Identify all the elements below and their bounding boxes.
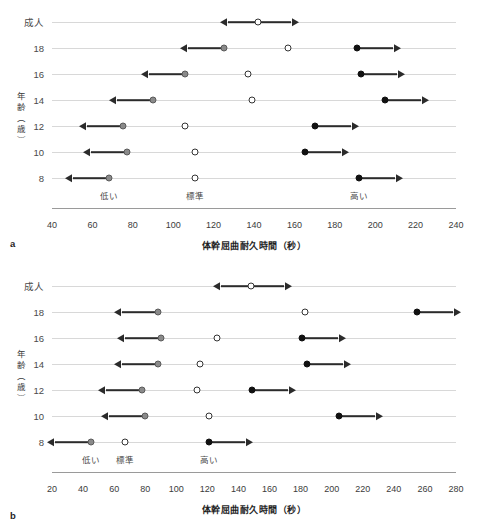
arrow-left-icon: [55, 441, 91, 443]
marker-standard: [205, 413, 212, 420]
marker-high: [301, 149, 308, 156]
row-gridline: [52, 312, 456, 313]
arrow-left-icon: [221, 285, 251, 287]
marker-low: [154, 309, 161, 316]
arrow-right-icon: [357, 47, 393, 49]
arrow-left-icon: [228, 21, 258, 23]
arrow-left-icon: [117, 99, 153, 101]
marker-high: [299, 335, 306, 342]
arrow-right-icon: [417, 311, 453, 313]
y-axis-tick-label: 10: [33, 411, 44, 422]
marker-low: [220, 45, 227, 52]
y-axis-tick-label: 14: [33, 95, 44, 106]
marker-high: [356, 175, 363, 182]
y-axis-tick-label: 成人: [24, 15, 44, 29]
x-axis-tick-label: 200: [368, 220, 383, 230]
marker-standard: [244, 71, 251, 78]
arrow-right-icon: [209, 441, 245, 443]
chart-panel-b: 年齢（歳） 成人18161412108低い標準高い204060801001201…: [0, 258, 480, 527]
marker-low: [123, 149, 130, 156]
marker-standard: [248, 97, 255, 104]
x-axis-title: 体幹屈曲耐久時間（秒）: [52, 503, 456, 516]
arrow-right-icon: [305, 151, 341, 153]
x-axis-tick-label: 120: [206, 220, 221, 230]
x-axis-line: [52, 208, 456, 209]
x-axis-tick-label: 80: [128, 220, 138, 230]
y-axis-tick-label: 10: [33, 147, 44, 158]
arrow-left-icon: [122, 363, 158, 365]
x-axis-tick-label: 140: [246, 220, 261, 230]
marker-standard: [302, 309, 309, 316]
y-axis-tick-label: 8: [39, 437, 44, 448]
arrow-left-icon: [122, 311, 158, 313]
marker-low: [139, 387, 146, 394]
marker-standard: [193, 387, 200, 394]
y-axis-tick-label: 12: [33, 121, 44, 132]
x-axis-tick-label: 180: [293, 484, 308, 494]
x-axis-tick-label: 100: [169, 484, 184, 494]
marker-standard: [213, 335, 220, 342]
arrow-right-icon: [359, 177, 395, 179]
x-axis-tick-label: 60: [109, 484, 119, 494]
x-axis-tick-label: 20: [47, 484, 57, 494]
arrow-right-icon: [258, 21, 291, 23]
marker-high: [249, 387, 256, 394]
y-axis-label-b: 年齢（歳）: [14, 350, 26, 405]
x-axis-tick-label: 40: [47, 220, 57, 230]
marker-high: [336, 413, 343, 420]
marker-standard: [122, 439, 129, 446]
y-axis-tick-label: 18: [33, 43, 44, 54]
marker-standard: [196, 361, 203, 368]
x-axis-tick-label: 160: [287, 220, 302, 230]
zone-caption: 高い: [200, 453, 218, 465]
marker-low: [87, 439, 94, 446]
x-axis-tick-label: 80: [140, 484, 150, 494]
arrow-right-icon: [302, 337, 338, 339]
arrow-left-icon: [87, 125, 123, 127]
arrow-right-icon: [251, 285, 284, 287]
marker-standard: [255, 19, 262, 26]
marker-high: [382, 97, 389, 104]
row-gridline: [52, 364, 456, 365]
x-axis-tick-label: 100: [166, 220, 181, 230]
x-axis-tick-label: 220: [355, 484, 370, 494]
marker-standard: [247, 283, 254, 290]
marker-low: [157, 335, 164, 342]
arrow-right-icon: [339, 415, 375, 417]
marker-low: [154, 361, 161, 368]
y-axis-tick-label: 12: [33, 385, 44, 396]
marker-high: [311, 123, 318, 130]
zone-caption: 高い: [350, 189, 368, 201]
arrow-right-icon: [385, 99, 421, 101]
y-axis-tick-label: 14: [33, 359, 44, 370]
x-axis-title: 体幹屈曲耐久時間（秒）: [52, 239, 456, 252]
x-axis-tick-label: 260: [417, 484, 432, 494]
zone-caption: 低い: [82, 453, 100, 465]
marker-low: [182, 71, 189, 78]
arrow-left-icon: [125, 337, 161, 339]
marker-low: [119, 123, 126, 130]
x-axis-tick-label: 240: [386, 484, 401, 494]
x-axis-line: [52, 472, 456, 473]
zone-caption: 標準: [116, 453, 134, 465]
marker-high: [358, 71, 365, 78]
x-axis-tick-label: 40: [78, 484, 88, 494]
arrow-left-icon: [188, 47, 224, 49]
marker-low: [105, 175, 112, 182]
y-axis-tick-label: 成人: [24, 279, 44, 293]
x-axis-tick-label: 60: [87, 220, 97, 230]
marker-high: [303, 361, 310, 368]
marker-standard: [182, 123, 189, 130]
marker-low: [142, 413, 149, 420]
arrow-right-icon: [361, 73, 397, 75]
arrow-left-icon: [73, 177, 109, 179]
arrow-right-icon: [252, 389, 288, 391]
x-axis-tick-label: 220: [408, 220, 423, 230]
panel-letter-a: a: [10, 238, 15, 249]
panel-letter-b: b: [10, 510, 16, 521]
x-axis-tick-label: 140: [231, 484, 246, 494]
chart-panel-a: 年齢（歳） 成人18161412108低い標準高い406080100120140…: [0, 0, 480, 258]
marker-high: [205, 439, 212, 446]
y-axis-tick-label: 16: [33, 69, 44, 80]
marker-standard: [192, 175, 199, 182]
